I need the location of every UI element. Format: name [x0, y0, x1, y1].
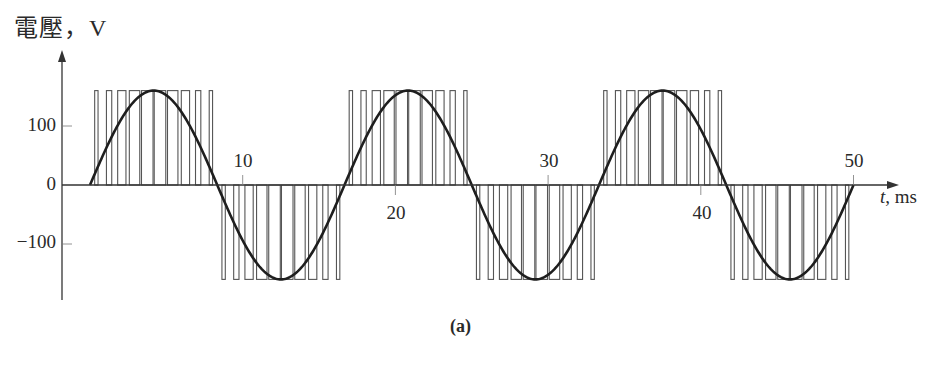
- pwm-pulse: [754, 185, 762, 279]
- x-tick-label-30: 30: [529, 150, 569, 172]
- pwm-pulse: [396, 91, 408, 185]
- pwm-pulse: [690, 91, 698, 185]
- pwm-pulse: [281, 185, 293, 279]
- pwm-pulse: [563, 185, 571, 279]
- pwm-pulse: [523, 185, 535, 279]
- pwm-pulse: [181, 91, 189, 185]
- pwm-pulse: [778, 185, 790, 279]
- pwm-pulse: [154, 91, 166, 185]
- x-tick-label-50: 50: [834, 150, 874, 172]
- y-axis-title: 電壓，V: [14, 8, 107, 43]
- pwm-pulse: [245, 185, 253, 279]
- y-axis-arrow-icon: [58, 50, 66, 62]
- y-tick-label-100: 100: [6, 114, 56, 136]
- x-tick-label-40: 40: [682, 202, 722, 224]
- pwm-pulse: [436, 91, 444, 185]
- x-tick-label-20: 20: [376, 202, 416, 224]
- y-tick-label-0: 0: [6, 173, 56, 195]
- pwm-pulse: [818, 185, 826, 279]
- figure-caption: (a): [450, 316, 471, 337]
- x-axis-unit: , ms: [885, 186, 917, 207]
- pwm-pulse: [372, 91, 380, 185]
- pwm-pulse: [650, 91, 662, 185]
- pwm-pulse: [309, 185, 317, 279]
- pwm-pulse: [118, 91, 126, 185]
- pwm-pulse: [499, 185, 507, 279]
- pwm-pulse: [536, 185, 548, 279]
- x-tick-label-10: 10: [223, 150, 263, 172]
- pwm-pulse: [269, 185, 281, 279]
- pwm-pulse: [663, 91, 675, 185]
- pwm-pulse: [409, 91, 421, 185]
- y-tick-label-minus-100: −100: [6, 231, 56, 253]
- x-axis-title: t, ms: [880, 186, 917, 208]
- pwm-pulse: [627, 91, 635, 185]
- pwm-pulse: [790, 185, 802, 279]
- pwm-pulse: [141, 91, 153, 185]
- chart-plot-area: [0, 0, 932, 365]
